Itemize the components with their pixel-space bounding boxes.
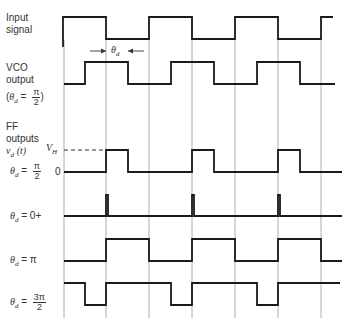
vco-condition-label: (θd = π2) [6,88,44,107]
input-signal-waveform [63,17,333,47]
input-signal-label: Inputsignal [6,12,32,36]
row-label-pi-over-2: θd = π2 [10,162,41,181]
ff-outputs-label: FFoutputs vd (t) [6,121,39,161]
row-label-0-plus: θd = 0+ [10,210,41,226]
row-label-pi: θd = π [10,254,37,270]
row-label-3pi-over-2: θd = 3π2 [10,293,46,312]
ff-pi-over-2-waveform [64,150,342,172]
vertical-gridlines [64,40,321,318]
zero-level-label: 0 [55,166,61,178]
phase-detector-timing-diagram [0,0,357,330]
theta-right-arrow-head-icon [128,49,133,54]
vco-output-label: VCOoutput [6,62,34,86]
ff-3pi-over-2-waveform [64,283,340,305]
waveform-traces [63,17,342,305]
theta-left-arrow-head-icon [101,49,106,54]
vh-level-label: VH [46,142,57,158]
theta-d-marker-label: θd [111,44,119,60]
ff-pi-waveform [64,239,342,261]
ff-0-plus-waveform [64,195,342,216]
vco-output-waveform [64,62,335,84]
